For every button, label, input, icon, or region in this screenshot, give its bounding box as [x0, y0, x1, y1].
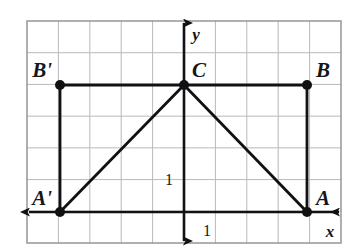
vertex-point-a: [302, 207, 312, 217]
vertex-point-c: [179, 80, 189, 90]
vertex-label-c: C: [192, 58, 207, 82]
y-axis-label: y: [190, 25, 200, 44]
vertex-point-ap: [55, 207, 65, 217]
x-axis-label: x: [325, 222, 335, 241]
vertex-label-ap: A': [30, 186, 52, 210]
vertex-point-b: [302, 80, 312, 90]
vertex-label-a: A: [314, 186, 330, 210]
coordinate-grid-figure: CBB'AA' 11 x y: [0, 0, 355, 250]
tick-label-unit-y: 1: [165, 171, 173, 188]
vertex-point-bp: [55, 80, 65, 90]
vertex-label-bp: B': [31, 58, 52, 82]
figure-canvas: CBB'AA' 11 x y: [0, 0, 355, 250]
tick-label-unit-x: 1: [203, 222, 211, 239]
vertex-label-b: B: [315, 58, 330, 82]
